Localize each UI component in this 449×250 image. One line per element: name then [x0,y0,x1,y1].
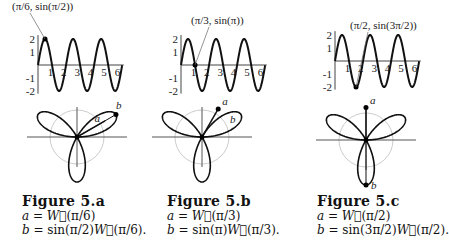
equation-b: b = sin(3π/2)W⃗(π/2). [317,223,449,237]
point-label: (π/6, sin(π/2)) [12,0,74,13]
origin-point [364,138,369,143]
vector-a-tip [113,112,118,117]
x-tick-label: 5 [398,62,404,74]
vector-a-label: a [370,94,376,106]
equation-a: a = W⃗(π/2) [317,209,449,223]
vector-a-label: a [94,112,100,124]
vector-b-label: b [116,99,122,111]
y-tick-label: 1 [30,46,36,58]
figure-5b-graphics: 21-1-2123456(π/3, sin(π))ab [147,0,294,194]
x-tick-label: 3 [371,62,377,74]
equation-a: a = W⃗(π/6) [22,209,146,223]
point-label: (π/3, sin(π)) [191,14,244,27]
y-tick-label: -2 [169,85,178,97]
vector-a-tip [216,106,221,111]
figure-title: Figure 5.c [317,194,449,209]
leader-line [195,27,209,65]
equation-b: b = sin(π/2)W⃗(π/6). [22,223,146,237]
y-tick-label: -2 [323,81,332,93]
equation-b: b = sin(π)W⃗(π/3). [167,223,280,237]
vector-a-tip [363,105,368,110]
figure-5a-panel: 21-1-2123456(π/6, sin(π/2))ab Figure 5.a… [0,0,147,250]
figure-5b-panel: 21-1-2123456(π/3, sin(π))ab Figure 5.b a… [147,0,294,250]
figure-title: Figure 5.a [22,194,146,209]
figure-5c-panel: 21-1-2123456(π/2, sin(3π/2))ab Figure 5.… [294,0,441,250]
vector-b-label: b [230,113,236,125]
figure-5a-graphics: 21-1-2123456(π/6, sin(π/2))ab [0,0,147,194]
x-tick-label: 5 [244,66,250,78]
x-tick-label: 5 [101,66,107,78]
y-tick-label: -1 [26,72,35,84]
figure-5c-graphics: 21-1-2123456(π/2, sin(3π/2))ab [294,0,442,194]
y-tick-label: 2 [173,33,179,45]
y-tick-label: 1 [327,42,333,54]
y-tick-label: 2 [327,29,333,41]
leader-line [356,32,368,87]
figure-title: Figure 5.b [167,194,280,209]
y-tick-label: -2 [26,85,35,97]
y-tick-label: -1 [169,72,178,84]
x-tick-label: 3 [74,66,80,78]
y-tick-label: -1 [323,68,332,80]
x-tick-label: 3 [217,66,223,78]
equation-a: a = W⃗(π/3) [167,209,280,223]
vector-a [202,109,218,137]
marked-point [193,63,198,68]
origin-point [200,135,205,140]
vector-b-label: b [371,179,377,191]
origin-point [75,135,80,140]
y-tick-label: 2 [30,33,36,45]
marked-point [354,85,359,90]
vector-b-tip [364,183,369,188]
vector-a-label: a [222,95,228,107]
point-label: (π/2, sin(3π/2)) [350,19,417,32]
y-tick-label: 1 [173,46,179,58]
